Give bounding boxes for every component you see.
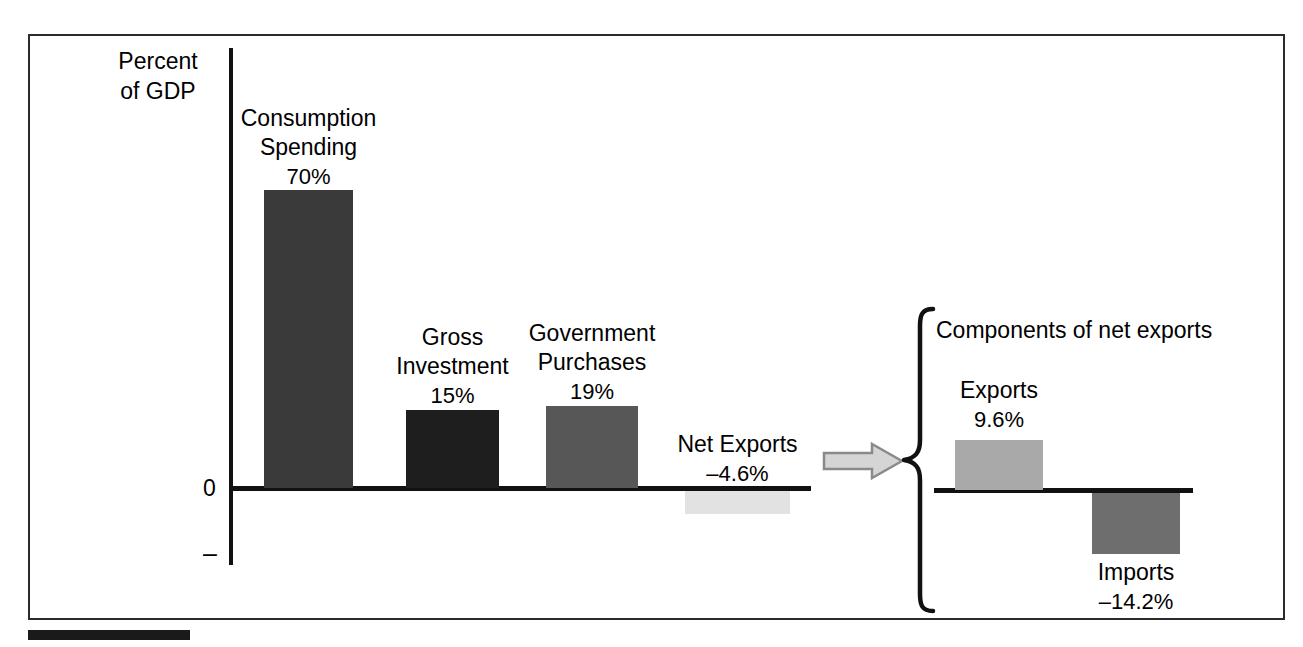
inset-panel-title: Components of net exports: [936, 316, 1212, 344]
bar-government-purchases: [546, 406, 638, 488]
bar-label-imports-text: Imports: [1098, 559, 1175, 585]
right-block-arrow-icon: [822, 442, 904, 480]
bar-consumption-spending: [264, 190, 353, 488]
figure-source-rule: [28, 630, 190, 640]
bar-imports: [1092, 493, 1180, 554]
bar-label-consumption-spending: Consumption Spending 70%: [228, 104, 389, 191]
bar-value-imports: –14.2%: [1068, 587, 1204, 616]
bar-value-government-purchases: 19%: [508, 377, 676, 406]
y-axis-title-line1: Percent: [98, 46, 218, 76]
bar-value-net-exports: –4.6%: [657, 459, 818, 488]
bar-value-consumption-spending: 70%: [228, 162, 389, 191]
y-tick-negative: –: [203, 540, 217, 566]
y-axis-title-line2: of GDP: [98, 76, 218, 106]
curly-brace-icon: [900, 306, 936, 614]
bar-label-government-purchases: Government Purchases 19%: [508, 319, 676, 406]
bar-label-line1: Government: [529, 320, 656, 346]
bar-label-net-exports: Net Exports –4.6%: [657, 430, 818, 488]
bar-label-line2: Investment: [396, 353, 509, 379]
bar-net-exports: [685, 491, 790, 514]
gdp-components-figure: Percent of GDP 0 – Consumption Spending …: [0, 0, 1303, 647]
y-tick-zero: 0: [203, 475, 216, 501]
bar-label-line2: Spending: [260, 134, 357, 160]
bar-label-exports: Exports 9.6%: [931, 376, 1067, 434]
bar-label-imports: Imports –14.2%: [1068, 558, 1204, 616]
bar-exports: [955, 440, 1043, 490]
bar-label-line2: Purchases: [538, 349, 647, 375]
bar-label-line1: Net Exports: [677, 431, 797, 457]
bar-gross-investment: [406, 410, 499, 488]
bar-label-line1: Consumption: [241, 105, 377, 131]
bar-value-exports: 9.6%: [931, 405, 1067, 434]
y-axis-title: Percent of GDP: [98, 46, 218, 106]
bar-label-exports-text: Exports: [960, 377, 1038, 403]
bar-label-line1: Gross: [422, 324, 483, 350]
